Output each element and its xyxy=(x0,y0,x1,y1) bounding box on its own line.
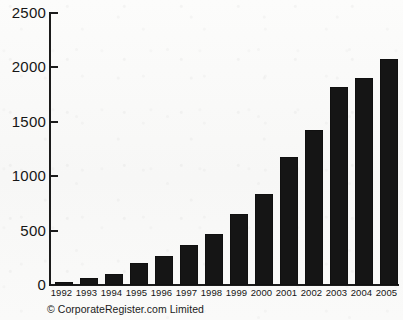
x-tick-label-2004: 2004 xyxy=(349,288,374,298)
bar-2001 xyxy=(280,157,298,285)
bar-1999 xyxy=(230,214,248,285)
bar-1992 xyxy=(55,282,73,285)
y-tick-label: 0 xyxy=(37,277,46,292)
x-tick-label-1992: 1992 xyxy=(49,288,74,298)
x-tick-label-1997: 1997 xyxy=(174,288,199,298)
bar-2004 xyxy=(355,78,373,285)
bar-2003 xyxy=(330,87,348,285)
x-tick-label-2001: 2001 xyxy=(274,288,299,298)
x-tick-label-2003: 2003 xyxy=(324,288,349,298)
x-axis-labels: 1992199319941995199619971998199920002001… xyxy=(49,288,401,302)
bars-layer xyxy=(49,13,399,285)
x-tick-label-1996: 1996 xyxy=(149,288,174,298)
x-tick-label-2000: 2000 xyxy=(249,288,274,298)
x-tick-label-1995: 1995 xyxy=(124,288,149,298)
bar-1994 xyxy=(105,274,123,285)
bar-1997 xyxy=(180,245,198,285)
y-tick-label: 1500 xyxy=(12,114,46,129)
x-tick-label-1999: 1999 xyxy=(224,288,249,298)
bar-1996 xyxy=(155,256,173,285)
x-tick-label-2002: 2002 xyxy=(299,288,324,298)
x-tick-label-1993: 1993 xyxy=(74,288,99,298)
bar-2000 xyxy=(255,194,273,285)
x-tick-label-1994: 1994 xyxy=(99,288,124,298)
x-tick-label-1998: 1998 xyxy=(199,288,224,298)
bar-1993 xyxy=(80,278,98,285)
y-tick-label: 1000 xyxy=(12,168,46,183)
y-tick-label: 500 xyxy=(20,223,46,238)
bar-1995 xyxy=(130,263,148,285)
bar-1998 xyxy=(205,234,223,285)
y-tick-label: 2000 xyxy=(12,59,46,74)
bar-chart-figure: 05001000150020002500 1992199319941995199… xyxy=(0,0,403,320)
x-tick-label-2005: 2005 xyxy=(374,288,399,298)
bar-2005 xyxy=(380,59,398,285)
y-tick-label: 2500 xyxy=(12,5,46,20)
bar-2002 xyxy=(305,130,323,285)
copyright-credit: © CorporateRegister.com Limited xyxy=(47,303,204,315)
